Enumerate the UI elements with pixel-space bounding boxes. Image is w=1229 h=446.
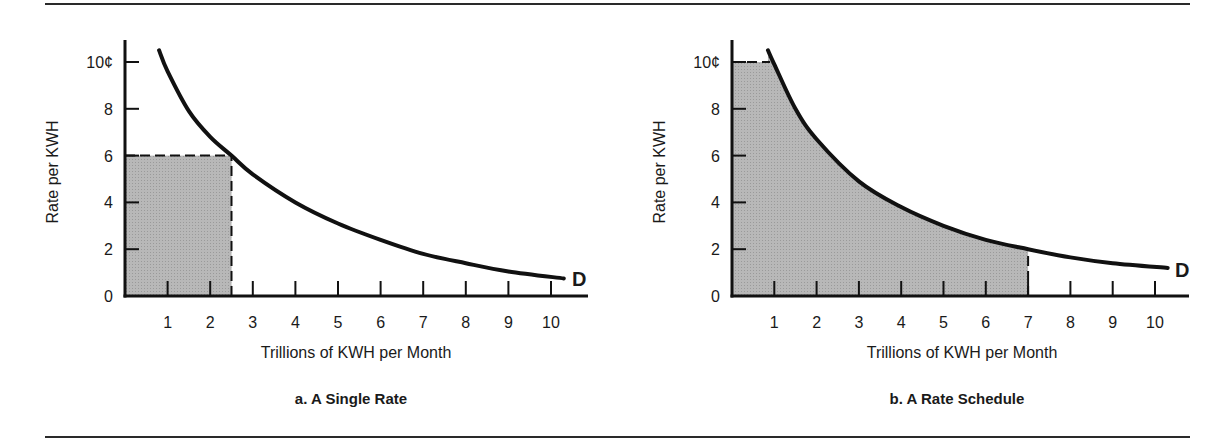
x-tick-label: 1 — [770, 314, 779, 331]
y-tick-label: 10¢ — [693, 54, 720, 71]
x-tick-label: 3 — [854, 314, 863, 331]
chart-caption: b. A Rate Schedule — [890, 390, 1025, 407]
x-axis-label: Trillions of KWH per Month — [867, 344, 1058, 361]
x-tick-label: 10 — [1146, 314, 1164, 331]
shaded-region — [732, 50, 1028, 296]
chart-rate-schedule: 0246810¢ 12345678910 D Rate per KWH Tril… — [0, 0, 1229, 440]
y-axis-label: Rate per KWH — [651, 120, 668, 223]
x-tick-label: 9 — [1108, 314, 1117, 331]
x-tick-label: 7 — [1024, 314, 1033, 331]
y-tick-label: 8 — [711, 101, 720, 118]
x-tick-label: 6 — [981, 314, 990, 331]
bottom-rule — [45, 436, 1190, 438]
y-tick-label: 2 — [711, 241, 720, 258]
x-tick-label: 8 — [1066, 314, 1075, 331]
curve-label: D — [1175, 259, 1189, 281]
x-tick-label: 2 — [812, 314, 821, 331]
x-tick-label: 4 — [897, 314, 906, 331]
y-tick-label: 6 — [711, 148, 720, 165]
y-tick-label: 0 — [711, 288, 720, 305]
y-tick-label: 4 — [711, 194, 720, 211]
x-tick-label: 5 — [939, 314, 948, 331]
